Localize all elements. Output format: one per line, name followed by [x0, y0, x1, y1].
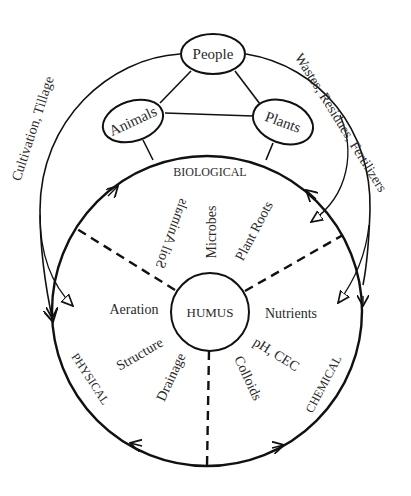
physical-title: PHYSICAL	[69, 350, 113, 407]
outer-arc-left	[40, 54, 180, 322]
link-animals-soil	[143, 140, 153, 160]
link-plants-soil	[266, 143, 273, 160]
cultivation-arrow	[40, 215, 73, 306]
soil-humus-diagram: People Animals Plants HUMUS Cultivation,…	[0, 0, 411, 496]
cultivation-tillage-label: Cultivation, Tillage	[9, 75, 57, 183]
structure-label: Structure	[114, 335, 166, 374]
nutrients-label: Nutrients	[265, 306, 317, 321]
divider-bio-chemical	[245, 235, 343, 291]
ph-cec-label: pH, CEC	[251, 334, 302, 374]
link-people-plants	[235, 71, 260, 104]
biological-title: BIOLOGICAL	[173, 165, 246, 179]
outer-arc-right	[246, 54, 370, 285]
link-animals-plants	[165, 113, 253, 116]
divider-physical-chemical	[207, 351, 209, 466]
people-label: People	[193, 46, 234, 62]
drainage-label: Drainage	[153, 351, 188, 404]
plant-roots-label: Plant Roots	[232, 199, 276, 263]
chemical-title: CHEMICAL	[303, 353, 345, 415]
link-people-animals	[160, 71, 191, 103]
colloids-label: Colloids	[231, 353, 265, 402]
humus-label: HUMUS	[187, 305, 234, 320]
microbes-label: Microbes	[204, 206, 219, 259]
aeration-label: Aeration	[110, 302, 159, 317]
diagram-canvas: People Animals Plants HUMUS Cultivation,…	[0, 0, 411, 496]
soil-animals-label: Soil Animals	[153, 197, 192, 270]
